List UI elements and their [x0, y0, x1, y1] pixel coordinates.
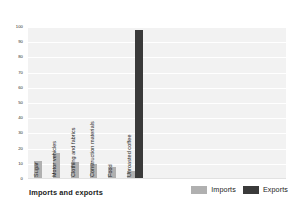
category-label: Food: [107, 164, 113, 177]
y-axis-tick-label: 10: [18, 162, 23, 166]
plot-area: SugarMotor vehiclesClothing and fabricsC…: [28, 27, 286, 179]
y-axis-tick-label: 0: [21, 177, 23, 181]
legend-entry[interactable]: Exports: [243, 185, 288, 194]
y-axis-tick-label: 90: [18, 40, 23, 44]
category-label: Motor vehicles: [51, 141, 57, 177]
category-label: Construction materials: [89, 121, 95, 177]
chart-legend: ImportsExports: [191, 185, 288, 194]
legend-label: Exports: [263, 185, 288, 194]
chart-figure: Percentage of total 10090807060504030201…: [0, 0, 296, 210]
y-axis-tick-label: 70: [18, 70, 23, 74]
category-label: Unroasted coffee: [126, 134, 132, 177]
y-axis-tick-label: 40: [18, 116, 23, 120]
y-axis-tick-label: 100: [16, 25, 23, 29]
bar-group: Clothing and fabrics: [71, 27, 91, 179]
bar-group: Construction materials: [90, 27, 110, 179]
legend-label: Imports: [211, 185, 236, 194]
y-axis-tick-label: 50: [18, 101, 23, 105]
legend-entry[interactable]: Imports: [191, 185, 236, 194]
y-axis-tick-label: 30: [18, 131, 23, 135]
y-axis-tick-label: 80: [18, 55, 23, 59]
bar-exports[interactable]: [135, 30, 143, 179]
bar-group: Unroasted coffee: [127, 27, 147, 179]
category-label: Sugar: [33, 162, 39, 177]
y-axis-tick-labels: 1009080706050403020100: [0, 27, 26, 179]
chart-title: Imports and exports: [29, 188, 103, 197]
bar-group: Food: [108, 27, 128, 179]
x-axis-line: [28, 178, 286, 179]
y-axis-tick-label: 60: [18, 86, 23, 90]
imports-swatch: [191, 186, 207, 194]
exports-swatch: [243, 186, 259, 194]
category-label: Clothing and fabrics: [70, 127, 76, 177]
y-axis-tick-label: 20: [18, 146, 23, 150]
